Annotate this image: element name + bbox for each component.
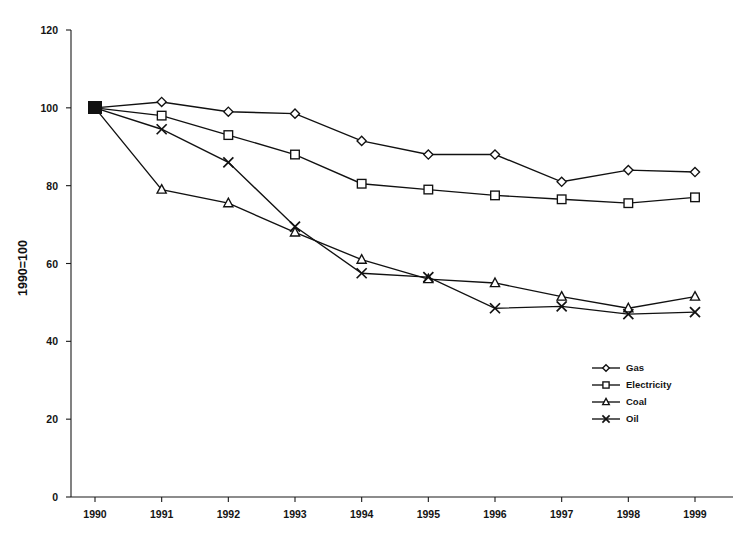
x-tick-label: 1990 — [83, 508, 107, 520]
x-tick-label: 1994 — [350, 508, 374, 520]
line-chart-figure: 020406080100120 1990=100 199019911992199… — [0, 0, 748, 538]
marker-diamond — [557, 177, 566, 186]
legend-item-coal[interactable]: Coal — [592, 396, 647, 407]
chart-canvas: 020406080100120 1990=100 199019911992199… — [0, 0, 748, 538]
marker-square — [691, 193, 700, 202]
marker-square — [603, 382, 609, 388]
x-tick-label: 1998 — [617, 508, 641, 520]
y-axis-ticks — [66, 30, 71, 497]
y-tick-label: 0 — [52, 491, 58, 503]
chart-legend: GasElectricityCoalOil — [592, 362, 672, 424]
series-line-oil — [95, 108, 695, 314]
marker-triangle — [690, 292, 699, 301]
data-series-group — [95, 97, 700, 319]
marker-square — [291, 150, 300, 159]
marker-diamond — [224, 107, 233, 116]
y-tick-label: 60 — [46, 258, 58, 270]
x-axis: 1990199119921993199419951996199719981999 — [71, 497, 733, 520]
marker-square — [557, 195, 566, 204]
legend-item-electricity[interactable]: Electricity — [592, 379, 672, 390]
legend-label: Electricity — [626, 379, 672, 390]
y-axis: 020406080100120 1990=100 — [16, 24, 71, 503]
x-tick-label: 1993 — [283, 508, 307, 520]
marker-square — [357, 179, 366, 188]
marker-diamond — [290, 109, 299, 118]
marker-diamond — [357, 136, 366, 145]
y-tick-label: 40 — [46, 335, 58, 347]
y-axis-tick-labels: 020406080100120 — [40, 24, 58, 503]
x-tick-label: 1992 — [217, 508, 241, 520]
y-tick-label: 100 — [40, 102, 58, 114]
marker-triangle — [603, 398, 610, 404]
series-coal — [95, 108, 700, 312]
marker-diamond — [424, 150, 433, 159]
legend-label: Coal — [626, 396, 647, 407]
x-tick-label: 1997 — [550, 508, 574, 520]
y-tick-label: 20 — [46, 413, 58, 425]
marker-square — [424, 185, 433, 194]
series-oil — [95, 108, 700, 319]
marker-square — [224, 131, 233, 140]
y-tick-label: 120 — [40, 24, 58, 36]
marker-diamond — [157, 97, 166, 106]
legend-item-gas[interactable]: Gas — [592, 362, 644, 373]
x-axis-tick-labels: 1990199119921993199419951996199719981999 — [83, 508, 707, 520]
x-tick-label: 1995 — [417, 508, 441, 520]
y-tick-label: 80 — [46, 180, 58, 192]
marker-diamond — [624, 166, 633, 175]
marker-square — [624, 199, 633, 208]
legend-label: Oil — [626, 413, 639, 424]
series-line-electricity — [95, 108, 695, 203]
x-tick-label: 1999 — [683, 508, 707, 520]
y-axis-title: 1990=100 — [16, 240, 30, 296]
series-electricity — [95, 108, 699, 208]
marker-square — [157, 111, 166, 120]
marker-diamond — [690, 167, 699, 176]
x-tick-label: 1996 — [483, 508, 507, 520]
marker-cross — [223, 157, 233, 167]
marker-square — [491, 191, 500, 200]
series-line-coal — [95, 108, 695, 308]
marker-cross — [157, 124, 167, 134]
origin-marker-cluster — [88, 101, 102, 114]
legend-label: Gas — [626, 362, 644, 373]
series-line-gas — [95, 102, 695, 182]
marker-diamond — [490, 150, 499, 159]
legend-item-oil[interactable]: Oil — [592, 413, 639, 424]
x-tick-label: 1991 — [150, 508, 174, 520]
x-axis-ticks — [95, 497, 695, 502]
marker-diamond — [603, 365, 610, 372]
